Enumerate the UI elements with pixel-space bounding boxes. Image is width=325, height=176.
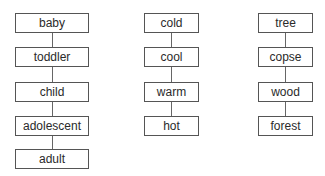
connector [171, 33, 172, 47]
node-copse: copse [258, 47, 313, 67]
connector [171, 102, 172, 116]
node-toddler: toddler [15, 47, 89, 67]
node-adult: adult [15, 149, 89, 169]
connector [52, 33, 53, 47]
node-forest: forest [258, 116, 313, 136]
node-hot: hot [144, 116, 199, 136]
node-tree: tree [258, 13, 313, 33]
connector [52, 102, 53, 116]
connector [52, 67, 53, 82]
connector [285, 33, 286, 47]
connector [285, 67, 286, 82]
node-cold: cold [144, 13, 199, 33]
node-baby: baby [15, 13, 89, 33]
node-warm: warm [144, 82, 199, 102]
connector [171, 67, 172, 82]
node-adolescent: adolescent [15, 116, 89, 136]
node-child: child [15, 82, 89, 102]
connector [285, 102, 286, 116]
node-wood: wood [258, 82, 313, 102]
connector [52, 136, 53, 149]
node-cool: cool [144, 47, 199, 67]
